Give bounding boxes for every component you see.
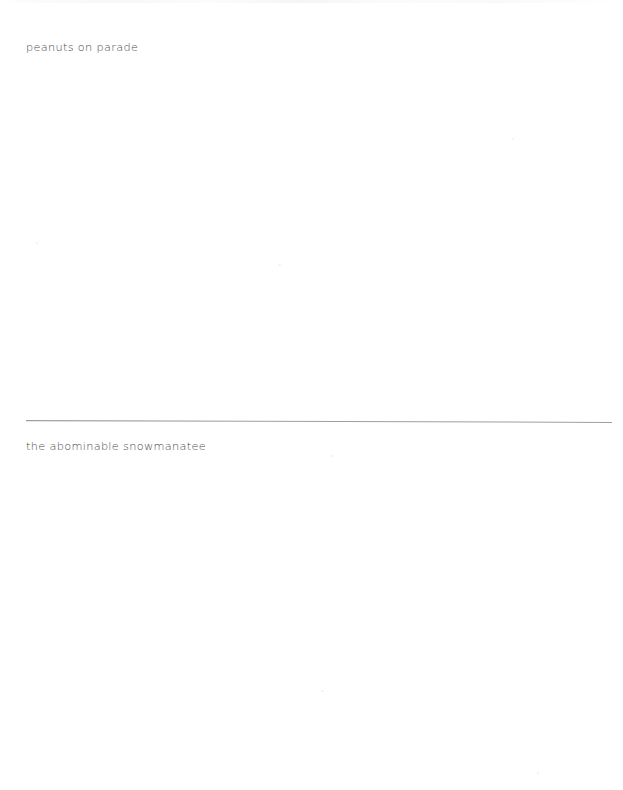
scan-speckle — [321, 690, 324, 692]
scan-speckle — [36, 242, 38, 244]
scan-speckle — [512, 138, 514, 140]
horizontal-rule — [26, 414, 612, 428]
scan-speckle — [278, 264, 281, 266]
text-line-peanuts-on-parade: peanuts on parade — [26, 41, 138, 54]
scan-speckle — [537, 772, 539, 774]
text-line-abominable-snowmanatee: the abominable snowmanatee — [26, 440, 206, 453]
scan-edge-artifact — [0, 0, 623, 3]
scanned-page: peanuts on parade the abominable snowman… — [0, 0, 623, 790]
scan-speckle — [330, 455, 333, 457]
horizontal-rule-stroke — [26, 421, 612, 423]
